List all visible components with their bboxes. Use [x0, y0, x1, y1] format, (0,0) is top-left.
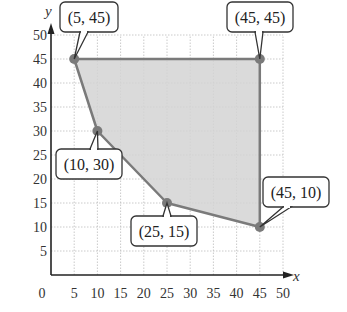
y-tick-label: 40 — [33, 76, 47, 91]
y-tick-label: 25 — [33, 148, 47, 163]
callout-pointer — [260, 207, 291, 227]
x-tick-label: 40 — [230, 286, 244, 301]
x-tick-label: 0 — [39, 286, 46, 301]
y-tick-label: 10 — [33, 220, 47, 235]
x-tick-label: 20 — [137, 286, 151, 301]
y-tick-label: 50 — [33, 28, 47, 43]
y-tick-label: 45 — [33, 52, 47, 67]
feasible-region-chart: 051015202530354045505101520253035404550 … — [0, 0, 347, 312]
x-axis-label: x — [292, 268, 300, 284]
y-tick-label: 5 — [40, 244, 47, 259]
x-tick-label: 25 — [160, 286, 174, 301]
x-tick-label: 45 — [253, 286, 267, 301]
y-tick-label: 20 — [33, 172, 47, 187]
y-tick-label: 15 — [33, 196, 47, 211]
x-tick-label: 10 — [90, 286, 104, 301]
x-tick-label: 35 — [206, 286, 220, 301]
callout-label: (45, 45) — [235, 9, 286, 27]
callout-45-10: (45, 10) — [260, 177, 329, 227]
callout-5-45: (5, 45) — [60, 2, 118, 59]
callout-pointer — [74, 32, 88, 59]
x-tick-label: 30 — [183, 286, 197, 301]
y-axis-label: y — [43, 3, 52, 19]
callout-label: (10, 30) — [64, 156, 115, 174]
callout-label: (25, 15) — [139, 223, 190, 241]
callout-label: (5, 45) — [68, 9, 111, 27]
x-tick-label: 50 — [276, 286, 290, 301]
x-tick-label: 5 — [71, 286, 78, 301]
y-tick-label: 35 — [33, 100, 47, 115]
y-axis-arrow-icon — [48, 23, 55, 34]
callout-label: (45, 10) — [271, 184, 322, 202]
x-tick-label: 15 — [114, 286, 128, 301]
callout-45-45: (45, 45) — [227, 2, 293, 59]
y-tick-label: 30 — [33, 124, 47, 139]
